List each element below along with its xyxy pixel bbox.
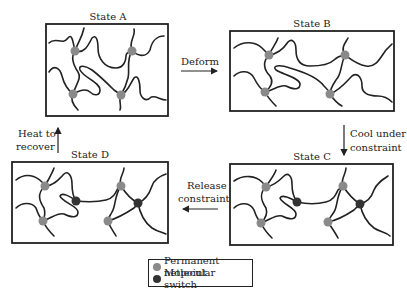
state-b-panel bbox=[230, 31, 394, 111]
release-constraint-label-line2: constraint bbox=[178, 193, 230, 205]
state-d-title: State D bbox=[68, 149, 112, 161]
heat-to-recover-label-line1: Heat to bbox=[18, 128, 56, 140]
cool-under-constraint-label-line2: constraint bbox=[350, 142, 402, 154]
cool-under-constraint-label-line1: Cool under bbox=[350, 128, 406, 140]
state-a-title: State A bbox=[86, 11, 130, 23]
deform-label: Deform bbox=[181, 56, 219, 68]
state-d-panel bbox=[12, 162, 168, 243]
state-b-title: State B bbox=[290, 18, 334, 30]
dark-circle-icon bbox=[153, 275, 161, 283]
gray-circle-icon bbox=[153, 263, 161, 271]
state-c-title: State C bbox=[290, 151, 334, 163]
legend-label: Molecular switch bbox=[164, 267, 248, 291]
release-constraint-label-line1: Release bbox=[187, 180, 227, 192]
state-a-panel bbox=[46, 24, 168, 116]
legend-item-molecular-switch: Molecular switch bbox=[153, 273, 248, 285]
legend: Permanent netpoint Molecular switch bbox=[148, 259, 253, 287]
heat-to-recover-label-line2: recover bbox=[16, 141, 55, 153]
state-c-panel bbox=[230, 164, 393, 245]
